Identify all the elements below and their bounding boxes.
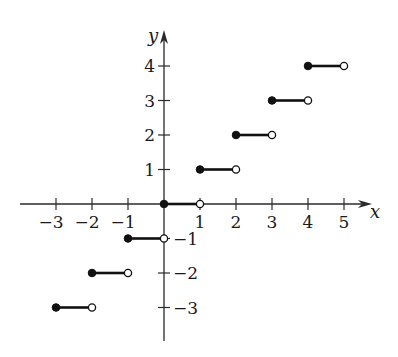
x-tick-label: −2 xyxy=(74,212,99,232)
closed-endpoint-icon xyxy=(124,235,132,243)
closed-endpoint-icon xyxy=(268,97,276,105)
step-segment xyxy=(268,97,311,105)
step-segment xyxy=(160,200,203,208)
open-endpoint-icon xyxy=(304,97,311,104)
open-endpoint-icon xyxy=(268,131,275,138)
open-endpoint-icon xyxy=(124,269,131,276)
y-axis-label: y xyxy=(147,25,159,46)
y-tick-label: 1 xyxy=(144,160,155,180)
closed-endpoint-icon xyxy=(52,304,60,312)
x-axis-label: x xyxy=(370,201,380,222)
step-segment xyxy=(196,166,239,174)
step-segment xyxy=(124,235,167,243)
closed-endpoint-icon xyxy=(196,166,204,174)
step-segment xyxy=(232,131,275,139)
y-tick-label: 3 xyxy=(144,91,155,111)
axes xyxy=(20,30,372,341)
x-tick-label: 3 xyxy=(267,212,278,232)
open-endpoint-icon xyxy=(160,235,167,242)
open-endpoint-icon xyxy=(88,304,95,311)
step-segment xyxy=(52,304,95,312)
x-tick-label: 2 xyxy=(231,212,242,232)
y-tick-label: −1 xyxy=(173,229,198,249)
open-endpoint-icon xyxy=(340,62,347,69)
open-endpoint-icon xyxy=(196,200,203,207)
closed-endpoint-icon xyxy=(160,200,168,208)
y-tick-label: −2 xyxy=(173,263,198,283)
x-tick-label: −1 xyxy=(110,212,135,232)
open-endpoint-icon xyxy=(232,166,239,173)
closed-endpoint-icon xyxy=(88,269,96,277)
x-tick-label: 4 xyxy=(303,212,314,232)
y-tick-label: −3 xyxy=(173,298,198,318)
closed-endpoint-icon xyxy=(232,131,240,139)
step-function-chart: −3−2−1123454321−1−2−3 x y xyxy=(0,0,398,357)
step-segment xyxy=(304,62,347,70)
x-tick-label: −3 xyxy=(38,212,63,232)
step-segment xyxy=(88,269,131,277)
closed-endpoint-icon xyxy=(304,62,312,70)
step-segments xyxy=(52,62,347,311)
y-tick-label: 4 xyxy=(144,56,155,76)
x-tick-label: 5 xyxy=(339,212,350,232)
ticks: −3−2−1123454321−1−2−3 xyxy=(38,56,349,318)
y-tick-label: 2 xyxy=(144,125,155,145)
